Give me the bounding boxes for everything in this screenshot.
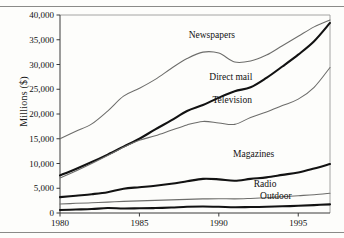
series-label-newspapers: Newspapers: [189, 30, 236, 40]
series-label-outdoor: Outdoor: [260, 191, 293, 201]
y-tick-label: 0: [50, 208, 55, 218]
chart-plot-area: Millions ($) 05,00010,00015,00020,00025,…: [0, 8, 344, 232]
series-line-outdoor: [60, 204, 330, 210]
line-chart-svg: 05,00010,00015,00020,00025,00030,00035,0…: [0, 8, 344, 232]
y-tick-label: 40,000: [29, 10, 54, 20]
series-label-radio: Radio: [254, 179, 277, 189]
y-tick-label: 10,000: [29, 159, 54, 169]
x-tick-label: 1980: [51, 218, 70, 228]
series-label-direct-mail: Direct mail: [209, 72, 252, 82]
y-axis-ticks: 05,00010,00015,00020,00025,00030,00035,0…: [29, 10, 60, 218]
series-line-direct-mail: [60, 23, 330, 175]
bottom-horizontal-rule: [0, 232, 344, 233]
y-tick-label: 35,000: [29, 35, 54, 45]
x-axis-ticks: 1980198519901995: [51, 213, 308, 228]
x-tick-label: 1995: [289, 218, 308, 228]
y-tick-label: 5,000: [34, 183, 55, 193]
y-axis-title: Millions ($): [18, 63, 29, 141]
page-top-text-fragment: [0, 0, 344, 4]
y-tick-label: 20,000: [29, 109, 54, 119]
x-tick-label: 1985: [130, 218, 149, 228]
x-tick-label: 1990: [210, 218, 229, 228]
y-tick-label: 25,000: [29, 84, 54, 94]
data-series-lines: [60, 20, 330, 210]
series-label-magazines: Magazines: [233, 149, 274, 159]
series-label-television: Television: [212, 95, 252, 105]
series-line-television: [60, 67, 330, 177]
y-tick-label: 15,000: [29, 134, 54, 144]
chart-page: Millions ($) 05,00010,00015,00020,00025,…: [0, 0, 344, 238]
chart-frame: [60, 15, 330, 213]
y-tick-label: 30,000: [29, 60, 54, 70]
top-horizontal-rule: [0, 6, 344, 7]
